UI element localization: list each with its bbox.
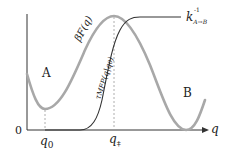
x-axis-label: q bbox=[211, 122, 219, 136]
mfpt-curve bbox=[45, 17, 181, 130]
x-axis-arrow-icon bbox=[202, 127, 209, 133]
y-origin-label: 0 bbox=[15, 124, 22, 137]
free-energy-curve bbox=[27, 16, 205, 130]
q0-label: q0 bbox=[40, 134, 54, 150]
rate-label-sub: A→B bbox=[192, 18, 207, 25]
mfpt-label: τMFP(q|q0) bbox=[93, 56, 115, 101]
rate-label-main: k bbox=[186, 10, 193, 24]
q-transition-label-sub: ‡ bbox=[117, 139, 121, 148]
state-b-label: B bbox=[183, 86, 192, 100]
rate-label-sup: -1 bbox=[194, 6, 200, 13]
q0-label-sub: 0 bbox=[48, 140, 54, 150]
state-a-label: A bbox=[41, 66, 51, 80]
q-transition-label: q‡ bbox=[109, 132, 121, 148]
energy-landscape-diagram: 0 q q0 q‡ A B βF(q) τMFP(q|q0) kA→B -1 bbox=[0, 0, 230, 154]
